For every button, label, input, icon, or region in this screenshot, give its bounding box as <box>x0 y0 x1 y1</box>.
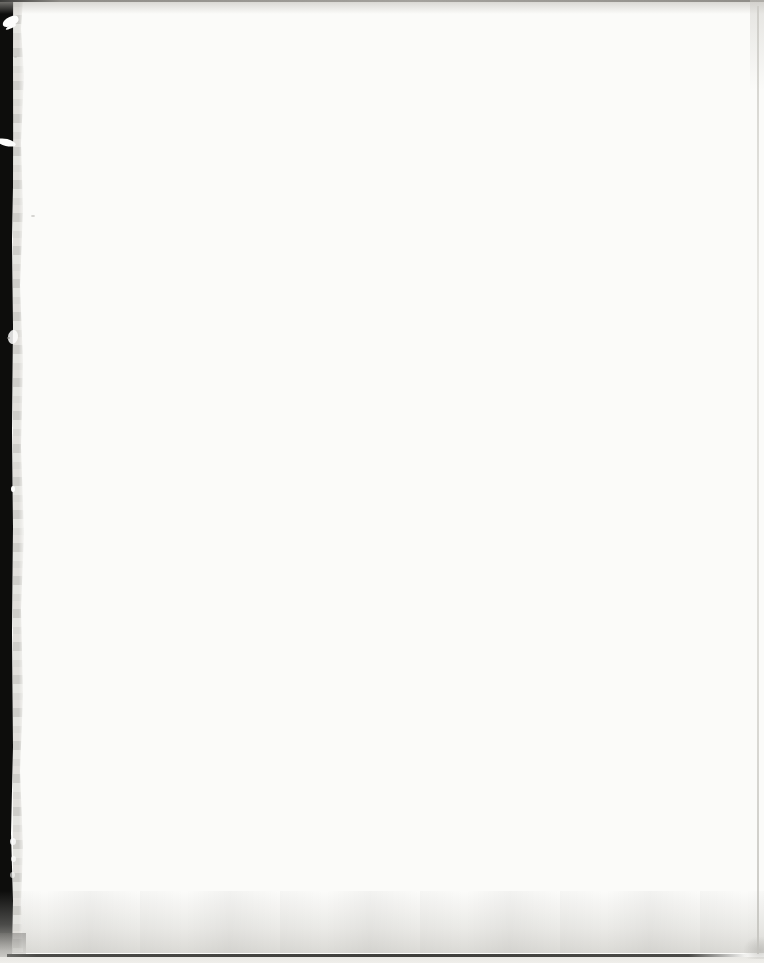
paper-tear-mark <box>11 486 15 492</box>
paper-speck <box>7 337 10 339</box>
top-edge-shadow <box>0 2 764 14</box>
bottom-edge-shadow <box>0 891 764 953</box>
paper-tear-mark <box>10 872 15 878</box>
paper-tear-mark <box>11 856 16 862</box>
paper-speck <box>14 56 17 58</box>
right-page-edge-line <box>757 6 759 954</box>
bottom-margin-strip <box>0 957 764 963</box>
paper-speck <box>31 215 35 217</box>
scanned-page <box>0 0 764 963</box>
paper-tear-mark <box>10 838 16 845</box>
top-right-shade <box>750 0 764 90</box>
bottom-right-shade <box>744 937 764 959</box>
